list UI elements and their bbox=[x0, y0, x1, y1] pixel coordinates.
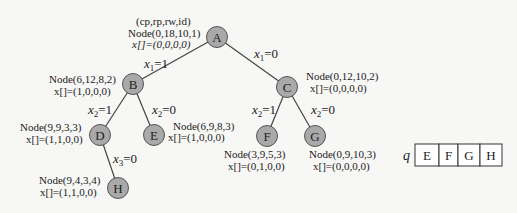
node-h-x: x[]=(1,1,0,0) bbox=[40, 186, 97, 199]
edge-label-a-c: x1=0 bbox=[253, 46, 278, 63]
node-h: H bbox=[108, 178, 129, 199]
svg-text:F: F bbox=[263, 129, 270, 144]
node-b: B bbox=[123, 74, 144, 95]
svg-text:B: B bbox=[129, 77, 138, 92]
queue-item: F bbox=[445, 148, 452, 163]
svg-text:A: A bbox=[212, 30, 222, 45]
node-d-x: x[]=(1,1,0,0) bbox=[26, 133, 83, 146]
queue-item: H bbox=[486, 148, 495, 163]
node-d: D bbox=[90, 125, 111, 146]
node-a: A bbox=[207, 27, 228, 48]
node-f: F bbox=[257, 126, 278, 147]
edge-label-b-e: x2=0 bbox=[151, 102, 176, 119]
edge-label-b-d: x2=1 bbox=[87, 102, 112, 119]
svg-text:D: D bbox=[95, 128, 104, 143]
svg-text:H: H bbox=[113, 181, 122, 196]
edge-label-c-f: x2=1 bbox=[251, 102, 276, 119]
node-e-x: x[]=(1,0,0,0) bbox=[168, 131, 225, 144]
node-g: G bbox=[305, 126, 326, 147]
svg-text:G: G bbox=[310, 129, 319, 144]
edge-label-d-h: x3=0 bbox=[112, 151, 137, 168]
node-f-x: x[]=(0,1,0,0) bbox=[228, 160, 285, 173]
edge-label-a-b: x1=1 bbox=[143, 56, 168, 73]
queue-item: G bbox=[464, 148, 473, 163]
queue: E F G H bbox=[415, 144, 502, 166]
svg-text:C: C bbox=[283, 80, 292, 95]
queue-item: E bbox=[423, 148, 431, 163]
node-c-x: x[]=(0,0,0,0) bbox=[310, 82, 367, 95]
edge-label-c-g: x2=0 bbox=[310, 102, 335, 119]
node-g-x: x[]=(0,0,0,0) bbox=[313, 160, 370, 173]
svg-text:E: E bbox=[150, 128, 158, 143]
node-e: E bbox=[144, 125, 165, 146]
edge-a-c bbox=[217, 37, 287, 87]
node-a-x: x[]=(0,0,0,0) bbox=[131, 38, 191, 51]
queue-label: q bbox=[403, 148, 410, 163]
node-c: C bbox=[277, 77, 298, 98]
search-tree-diagram: x1=1 x1=0 x2=1 x2=0 x2=1 x2=0 x3=0 A B C… bbox=[0, 0, 517, 213]
node-b-x: x[]=(1,0,0,0) bbox=[54, 85, 111, 98]
